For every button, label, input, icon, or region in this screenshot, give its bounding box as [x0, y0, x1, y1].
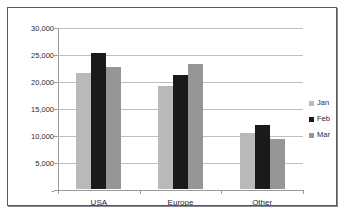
- legend-swatch-icon: [309, 133, 314, 138]
- y-axis-tick-label: 25,000: [8, 51, 54, 60]
- x-axis-label-europe: Europe: [168, 198, 194, 207]
- bar-europe-mar[interactable]: [188, 64, 203, 189]
- legend-swatch-icon: [309, 101, 314, 106]
- y-axis-tick-label: 20,000: [8, 78, 54, 87]
- axis-baseline: [58, 190, 303, 191]
- chart-frame: -5,00010,00015,00020,00025,00030,000 USA…: [7, 7, 337, 206]
- gridline: [58, 28, 303, 29]
- y-axis-tick-label: 10,000: [8, 132, 54, 141]
- y-axis-tick-label: 30,000: [8, 24, 54, 33]
- bar-europe-jan[interactable]: [158, 86, 173, 189]
- x-axis-label-other: Other: [252, 198, 272, 207]
- x-axis-tick-mark: [221, 190, 222, 194]
- bar-usa-feb[interactable]: [91, 53, 106, 189]
- chart-legend: JanFebMar: [309, 95, 343, 143]
- legend-swatch-icon: [309, 117, 314, 122]
- x-axis-tick-mark: [303, 190, 304, 194]
- bar-other-jan[interactable]: [240, 133, 255, 189]
- legend-label: Jan: [317, 99, 329, 107]
- bar-usa-jan[interactable]: [76, 73, 91, 189]
- legend-item-feb[interactable]: Feb: [309, 111, 343, 127]
- x-axis-label-usa: USA: [91, 198, 107, 207]
- x-axis-tick-mark: [140, 190, 141, 194]
- bar-other-mar[interactable]: [270, 139, 285, 189]
- y-axis-tick-label: -: [8, 186, 54, 195]
- x-axis-tick-mark: [58, 190, 59, 194]
- legend-label: Feb: [317, 115, 330, 123]
- bar-other-feb[interactable]: [255, 125, 270, 189]
- legend-item-mar[interactable]: Mar: [309, 127, 343, 143]
- bar-europe-feb[interactable]: [173, 75, 188, 189]
- y-axis-tick-label: 5,000: [8, 159, 54, 168]
- bar-usa-mar[interactable]: [106, 67, 121, 189]
- legend-label: Mar: [317, 131, 330, 139]
- y-axis-tick-label: 15,000: [8, 105, 54, 114]
- legend-item-jan[interactable]: Jan: [309, 95, 343, 111]
- plot-area: [58, 28, 303, 190]
- bar-chart: -5,00010,00015,00020,00025,00030,000 USA…: [0, 0, 346, 219]
